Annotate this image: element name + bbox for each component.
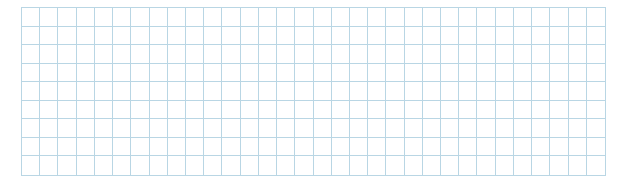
grid-cell [532,119,550,138]
grid-cell [569,82,587,101]
grid-cell [441,82,459,101]
grid-cell [58,119,76,138]
grid-cell [186,64,204,83]
grid-cell [77,138,95,157]
grid-cell [441,8,459,27]
grid-cell [587,8,605,27]
grid-cell [441,101,459,120]
grid-cell [459,8,477,27]
grid-cell [532,82,550,101]
grid-cell [113,101,131,120]
grid-cell [259,156,277,175]
grid-cell [386,8,404,27]
grid-cell [295,156,313,175]
grid-cell [113,119,131,138]
grid-cell [168,119,186,138]
grid-cell [368,64,386,83]
grid-cell [277,64,295,83]
grid-cell [569,156,587,175]
grid-cell [186,101,204,120]
grid-cell [314,64,332,83]
grid-cell [569,101,587,120]
grid-cell [514,101,532,120]
grid-cell [477,101,495,120]
grid-cell [58,45,76,64]
grid-cell [150,156,168,175]
grid-cell [186,27,204,46]
grid-cell [587,101,605,120]
grid-cell [241,138,259,157]
grid-cell [259,82,277,101]
grid-cell [405,8,423,27]
grid-cell [222,8,240,27]
grid-cell [95,101,113,120]
grid-cell [587,45,605,64]
grid-cell [368,27,386,46]
grid-cell [550,156,568,175]
grid-cell [423,101,441,120]
grid-cell [569,8,587,27]
grid-cell [150,8,168,27]
grid-cell [569,45,587,64]
grid-cell [368,45,386,64]
grid-cell [186,156,204,175]
grid-cell [405,101,423,120]
grid-cell [22,64,40,83]
grid-cell [514,156,532,175]
grid-cell [259,45,277,64]
square-grid [21,7,606,176]
grid-cell [150,64,168,83]
grid-cell [241,119,259,138]
grid-cell [459,119,477,138]
grid-cell [22,101,40,120]
grid-cell [314,82,332,101]
grid-cell [241,64,259,83]
grid-cell [350,64,368,83]
grid-cell [77,64,95,83]
grid-cell [587,156,605,175]
grid-cell [186,8,204,27]
grid-cell [131,119,149,138]
grid-cell [277,156,295,175]
grid-cell [532,156,550,175]
grid-cell [550,27,568,46]
grid-cell [204,8,222,27]
grid-cell [550,101,568,120]
grid-cell [295,45,313,64]
grid-cell [386,82,404,101]
grid-cell [131,27,149,46]
grid-cell [241,101,259,120]
grid-cell [277,8,295,27]
grid-cell [386,101,404,120]
grid-cell [405,156,423,175]
grid-cell [150,119,168,138]
grid-cell [350,138,368,157]
grid-cell [314,45,332,64]
grid-cell [40,101,58,120]
grid-cell [113,64,131,83]
grid-cell [204,64,222,83]
grid-cell [259,8,277,27]
grid-cell [22,8,40,27]
grid-cell [58,138,76,157]
grid-cell [514,82,532,101]
grid-cell [350,82,368,101]
grid-cell [314,119,332,138]
grid-cell [295,8,313,27]
grid-cell [150,82,168,101]
grid-cell [514,138,532,157]
grid-cell [514,119,532,138]
grid-cell [350,119,368,138]
grid-cell [459,45,477,64]
grid-cell [496,27,514,46]
grid-cell [40,64,58,83]
grid-cell [550,119,568,138]
grid-cell [477,45,495,64]
grid-cell [40,27,58,46]
grid-cell [569,119,587,138]
grid-cell [423,45,441,64]
grid-cell [295,27,313,46]
grid-cell [131,138,149,157]
grid-cell [113,82,131,101]
grid-cell [204,45,222,64]
